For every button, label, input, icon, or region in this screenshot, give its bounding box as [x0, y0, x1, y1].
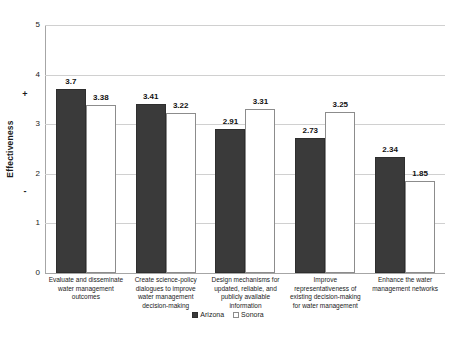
y-axis-title-text: Effectiveness: [5, 120, 15, 177]
legend-label: Sonora: [241, 311, 264, 318]
bar-value-label: 1.85: [412, 169, 428, 178]
x-axis-category-labels: Evaluate and disseminate water managemen…: [46, 276, 445, 310]
chart-legend: ArizonaSonora: [0, 311, 456, 318]
category-label: Evaluate and disseminate water managemen…: [46, 276, 126, 310]
y-tick-label: 2: [20, 169, 40, 178]
legend-swatch-icon: [192, 312, 198, 318]
bar-value-label: 3.22: [173, 101, 189, 110]
bar-value-label: 3.7: [65, 77, 76, 86]
y-tick-label: 1: [20, 218, 40, 227]
y-tick-label: 0: [20, 268, 40, 277]
bar-value-label: 2.73: [302, 126, 318, 135]
gridline-0: [45, 273, 445, 274]
bar-arizona[interactable]: 2.73: [295, 138, 325, 273]
legend-swatch-icon: [233, 312, 239, 318]
bar-group: 2.341.85: [365, 25, 445, 273]
bar-groups: 3.73.383.413.222.913.312.733.252.341.85: [46, 25, 445, 273]
category-label: Enhance the water management networks: [365, 276, 445, 310]
y-axis-title: Effectiveness: [2, 25, 18, 273]
bar-value-label: 3.25: [332, 100, 348, 109]
category-label: Design mechanisms for updated, reliable,…: [206, 276, 286, 310]
bar-pair: 2.913.31: [215, 25, 275, 273]
bar-pair: 3.413.22: [136, 25, 196, 273]
bar-value-label: 3.31: [253, 97, 269, 106]
bar-group: 3.73.38: [46, 25, 126, 273]
bar-sonora[interactable]: 3.22: [166, 113, 196, 273]
plot-area: 3.73.383.413.222.913.312.733.252.341.85: [45, 25, 445, 273]
legend-item-arizona[interactable]: Arizona: [192, 311, 224, 318]
y-tick-label: 4: [20, 70, 40, 79]
legend-label: Arizona: [200, 311, 224, 318]
y-axis-positive-sign: +: [18, 89, 32, 99]
bar-sonora[interactable]: 1.85: [405, 181, 435, 273]
bar-arizona[interactable]: 3.7: [56, 89, 86, 273]
bar-value-label: 2.34: [382, 145, 398, 154]
bar-value-label: 3.38: [93, 93, 109, 102]
bar-group: 2.913.31: [206, 25, 286, 273]
bar-arizona[interactable]: 3.41: [136, 104, 166, 273]
bar-value-label: 3.41: [143, 92, 159, 101]
y-tick-label: 3: [20, 119, 40, 128]
bar-sonora[interactable]: 3.25: [325, 112, 355, 273]
bar-pair: 2.733.25: [295, 25, 355, 273]
category-label: Improve representativeness of existing d…: [285, 276, 365, 310]
bar-value-label: 2.91: [223, 117, 239, 126]
legend-item-sonora[interactable]: Sonora: [233, 311, 264, 318]
category-label: Create science-policy dialogues to impro…: [126, 276, 206, 310]
bar-arizona[interactable]: 2.34: [375, 157, 405, 273]
bar-group: 3.413.22: [126, 25, 206, 273]
bar-arizona[interactable]: 2.91: [215, 129, 245, 273]
y-axis-negative-sign: -: [18, 186, 32, 196]
bar-sonora[interactable]: 3.31: [245, 109, 275, 273]
bar-sonora[interactable]: 3.38: [86, 105, 116, 273]
y-tick-label: 5: [20, 20, 40, 29]
bar-group: 2.733.25: [285, 25, 365, 273]
bar-pair: 2.341.85: [375, 25, 435, 273]
bar-pair: 3.73.38: [56, 25, 116, 273]
effectiveness-bar-chart: Effectiveness + - 3.73.383.413.222.913.3…: [0, 0, 456, 344]
